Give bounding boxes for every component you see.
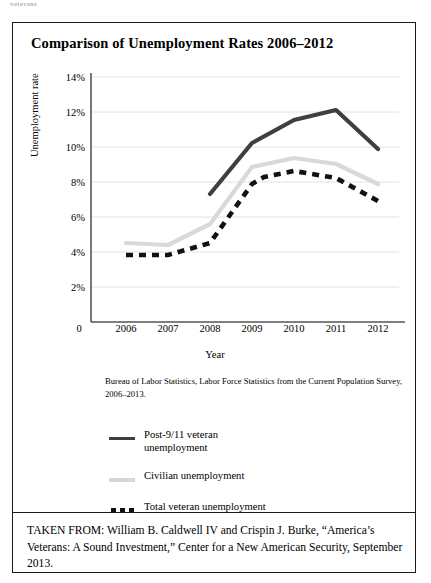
legend-item-civilian: Civilian unemployment [109, 469, 409, 487]
x-axis-title: Year [13, 349, 417, 360]
x-tick-2007: 2007 [146, 323, 190, 334]
chart-svg [13, 65, 417, 365]
legend-label-line1: Post-9/11 veteran [144, 429, 218, 440]
legend-label-civilian: Civilian unemployment [144, 469, 244, 482]
x-tick-origin: 0 [57, 323, 101, 334]
x-tick-2009: 2009 [230, 323, 274, 334]
series-total-veteran-unemployment [126, 171, 378, 255]
figure-title: Comparison of Unemployment Rates 2006–20… [31, 35, 333, 52]
page-running-header: veterans [10, 0, 37, 7]
figure-attribution: TAKEN FROM: William B. Caldwell IV and C… [27, 523, 405, 573]
x-tick-2011: 2011 [314, 323, 358, 334]
legend-swatch-solid-dark-icon [109, 432, 135, 446]
legend-item-total-veteran: Total veteran unemployment [109, 500, 409, 518]
figure-page: veterans Comparison of Unemployment Rate… [0, 0, 431, 583]
figure-container: Comparison of Unemployment Rates 2006–20… [12, 22, 416, 573]
legend-swatch-solid-light-icon [109, 473, 135, 487]
legend-item-post911-veteran: Post-9/11 veteran unemployment [109, 428, 409, 454]
x-tick-2012: 2012 [356, 323, 400, 334]
series-civilian-unemployment [126, 158, 378, 245]
x-tick-2008: 2008 [188, 323, 232, 334]
x-tick-2006: 2006 [104, 323, 148, 334]
chart-legend: Post-9/11 veteran unemployment Civilian … [109, 428, 409, 531]
chart-plot-area: Unemployment rate 14% 12% 10% 8% 6% 4% 2… [13, 65, 417, 365]
chart-source-note: Bureau of Labor Statistics, Labor Force … [105, 375, 405, 402]
x-tick-2010: 2010 [272, 323, 316, 334]
legend-label-line2: unemployment [144, 442, 208, 453]
gridlines [91, 77, 399, 287]
figure-divider [13, 512, 415, 513]
legend-label-post911-veteran: Post-9/11 veteran unemployment [144, 428, 218, 454]
series-post911-veteran-unemployment [210, 110, 378, 194]
